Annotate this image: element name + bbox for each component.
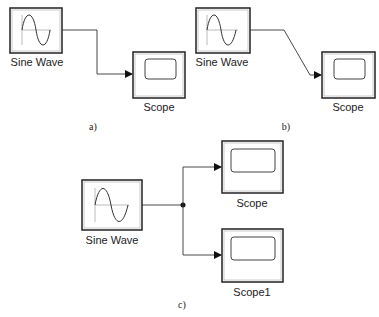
scope-label-a: Scope — [143, 101, 174, 113]
sine-wave-label-b: Sine Wave — [196, 56, 249, 68]
signal-line-a[interactable] — [62, 30, 132, 74]
scope-label-b: Scope — [332, 101, 363, 113]
sine-wave-label-a: Sine Wave — [11, 56, 64, 68]
caption-a: a) — [89, 121, 97, 132]
caption-b: b) — [282, 121, 290, 132]
signal-line-b[interactable] — [250, 30, 321, 75]
panel-c — [82, 141, 283, 282]
sine-wave-label-c: Sine Wave — [86, 234, 139, 246]
panel-b — [196, 8, 375, 98]
scope-block-b[interactable] — [322, 52, 375, 98]
signal-line-c-lower[interactable] — [183, 205, 221, 255]
scope-label-c: Scope — [236, 197, 267, 209]
diagram-canvas — [0, 0, 379, 317]
scope1-label-c: Scope1 — [233, 286, 270, 298]
scope1-block-c[interactable] — [222, 229, 283, 282]
signal-line-c-upper[interactable] — [183, 167, 221, 205]
scope-block-c[interactable] — [222, 141, 283, 193]
caption-c: c) — [178, 299, 186, 310]
scope-block-a[interactable] — [133, 52, 185, 98]
sine-wave-block-a[interactable] — [10, 8, 62, 53]
panel-a — [10, 8, 185, 98]
sine-wave-block-b[interactable] — [196, 8, 250, 53]
sine-wave-block-c[interactable] — [82, 180, 142, 230]
